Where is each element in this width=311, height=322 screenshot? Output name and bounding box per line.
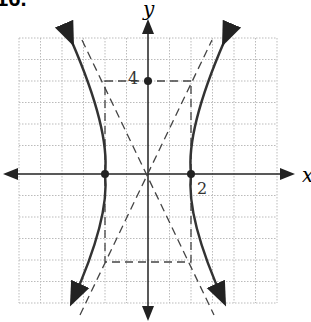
x-axis-label: x bbox=[302, 163, 311, 187]
problem-number: 16. bbox=[0, 0, 27, 11]
y-axis-label: y bbox=[142, 0, 155, 21]
right-branch bbox=[190, 42, 224, 302]
x-tick-label: 2 bbox=[197, 179, 207, 198]
y-tick-label: 4 bbox=[128, 69, 138, 88]
hyperbola-graph: 16. y x 4 2 bbox=[0, 0, 311, 322]
